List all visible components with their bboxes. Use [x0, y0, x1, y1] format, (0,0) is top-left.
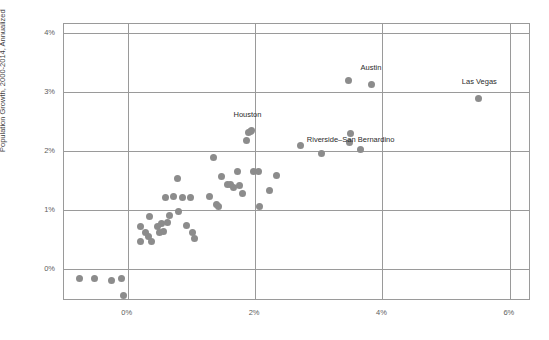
y-tick-label: 4% [44, 27, 55, 36]
data-point[interactable] [187, 194, 194, 201]
y-tick-label: 0% [44, 264, 55, 273]
annotation-houston: Houston [233, 110, 261, 119]
data-point[interactable] [76, 275, 83, 282]
x-tick-label: 4% [376, 308, 387, 317]
data-point[interactable] [146, 213, 153, 220]
data-point[interactable] [191, 235, 198, 242]
data-point[interactable] [183, 222, 190, 229]
data-point[interactable] [160, 228, 167, 235]
data-point[interactable] [91, 275, 98, 282]
x-tick-label: 2% [249, 308, 260, 317]
annotation-austin: Austin [361, 63, 382, 72]
gridline-vertical [510, 24, 511, 299]
y-axis-ticks: 0%1%2%3%4% [0, 0, 55, 340]
data-point[interactable] [256, 203, 263, 210]
gridline-vertical [255, 24, 256, 299]
scatter-chart: Population Growth, 2000-2014, Annualized… [0, 0, 549, 340]
x-tick-label: 0% [121, 308, 132, 317]
data-point[interactable] [210, 154, 217, 161]
x-tick-label: 6% [503, 308, 514, 317]
data-point[interactable] [297, 142, 304, 149]
data-point[interactable] [243, 137, 250, 144]
data-point[interactable] [166, 212, 173, 219]
data-point[interactable] [266, 187, 273, 194]
data-point[interactable] [108, 277, 115, 284]
gridline-horizontal [64, 33, 529, 34]
data-point[interactable] [318, 150, 325, 157]
gridline-horizontal [64, 210, 529, 211]
data-point[interactable] [218, 173, 225, 180]
data-point[interactable] [234, 168, 241, 175]
data-point-las-vegas[interactable] [475, 95, 482, 102]
data-point[interactable] [239, 190, 246, 197]
gridline-horizontal [64, 269, 529, 270]
data-point[interactable] [164, 219, 171, 226]
data-point[interactable] [162, 194, 169, 201]
gridline-vertical [382, 24, 383, 299]
annotation-las-vegas: Las Vegas [462, 77, 497, 86]
plot-area: HoustonAustinRiverside–San BernardinoLas… [63, 23, 530, 300]
gridline-horizontal [64, 92, 529, 93]
data-point[interactable] [120, 292, 127, 299]
data-point[interactable] [236, 182, 243, 189]
y-tick-label: 1% [44, 205, 55, 214]
data-point[interactable] [148, 238, 155, 245]
data-point-houston[interactable] [247, 128, 254, 135]
data-point[interactable] [118, 275, 125, 282]
data-point[interactable] [273, 172, 280, 179]
data-point[interactable] [215, 203, 222, 210]
data-point[interactable] [175, 208, 182, 215]
data-point[interactable] [345, 77, 352, 84]
data-point[interactable] [137, 238, 144, 245]
data-point[interactable] [170, 193, 177, 200]
data-point-austin[interactable] [368, 81, 375, 88]
annotation-riverside-san-bernardino: Riverside–San Bernardino [307, 134, 395, 143]
y-tick-label: 3% [44, 87, 55, 96]
data-point[interactable] [206, 193, 213, 200]
data-point[interactable] [179, 194, 186, 201]
data-point[interactable] [357, 146, 364, 153]
data-point[interactable] [174, 175, 181, 182]
y-tick-label: 2% [44, 146, 55, 155]
data-point[interactable] [255, 168, 262, 175]
gridline-horizontal [64, 151, 529, 152]
gridline-vertical [128, 24, 129, 299]
